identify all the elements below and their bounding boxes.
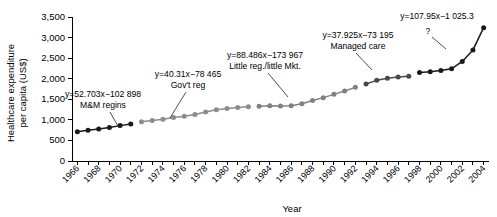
leader-line-1 [110, 112, 119, 128]
x-tick-label: 1996 [381, 163, 402, 184]
data-point [267, 103, 272, 108]
x-tick-label: 2000 [424, 163, 445, 184]
data-point [96, 126, 101, 131]
data-point [289, 103, 294, 108]
data-point [139, 119, 144, 124]
data-point [246, 104, 251, 109]
data-point [310, 98, 315, 103]
annotation-label-2: Gov't reg [171, 80, 206, 90]
x-tick-label: 1972 [124, 163, 145, 184]
data-point [257, 104, 262, 109]
data-point [160, 117, 165, 122]
annotation-little-reg: y=88.486x−173 967 Little reg./little Mkt… [227, 50, 303, 97]
x-axis-title: Year [282, 203, 301, 214]
annotation-equation-1: y=52.703x−102 898 [65, 89, 141, 99]
x-tick-label: 1978 [188, 163, 209, 184]
data-series-layer [75, 25, 486, 134]
x-tick-label: 1980 [210, 163, 231, 184]
chart-figure: Healthcare expenditure per capita (US$) … [0, 0, 497, 217]
y-tick-label: 2,000 [41, 73, 65, 84]
data-point [203, 110, 208, 115]
y-tick-label: 0 [60, 155, 65, 166]
data-point [342, 89, 347, 94]
annotation-equation-2: y=40.31x−78 465 [155, 69, 222, 79]
x-tick-label: 1998 [402, 163, 423, 184]
data-point [128, 121, 133, 126]
data-point [481, 25, 486, 30]
data-point [438, 68, 443, 73]
data-point [225, 106, 230, 111]
x-tick-label: 2002 [445, 163, 466, 184]
series-line [259, 87, 355, 106]
x-tick-label: 1982 [231, 163, 252, 184]
data-point [278, 104, 283, 109]
annotation-equation-5: y=107.95x−1 025.3 [400, 11, 474, 21]
data-point [449, 66, 454, 71]
y-tick-label: 3,000 [41, 32, 65, 43]
annotation-label-1: M&M regins [80, 100, 126, 110]
data-point [86, 128, 91, 133]
annotation-managed-care: y=37.925x−73 195 Managed care [322, 30, 393, 70]
x-tick-label: 2004 [466, 163, 487, 184]
annotation-unknown-era: y=107.95x−1 025.3 ? [400, 11, 474, 49]
y-tick-label: 1,500 [41, 93, 65, 104]
x-tick-label: 1986 [274, 163, 295, 184]
series-line [77, 124, 130, 132]
data-point [353, 85, 358, 90]
data-point [470, 47, 475, 52]
data-point [192, 112, 197, 117]
data-point [107, 125, 112, 130]
y-axis-title-line2: per capita (US$) [17, 58, 28, 127]
data-point [364, 82, 369, 87]
x-tick-label: 1974 [146, 163, 167, 184]
x-tick-label: 1976 [167, 163, 188, 184]
x-tick-label: 1984 [252, 163, 273, 184]
y-tick-label: 2,500 [41, 52, 65, 63]
x-tick-label: 1966 [60, 163, 81, 184]
annotation-equation-4: y=37.925x−73 195 [322, 30, 393, 40]
data-point [321, 95, 326, 100]
data-point [331, 92, 336, 97]
y-tick-label: 500 [49, 134, 65, 145]
data-point [460, 59, 465, 64]
data-point [150, 118, 155, 123]
annotation-label-3: Little reg./little Mkt. [229, 61, 301, 71]
series-segment [75, 121, 133, 134]
annotation-label-4: Managed care [331, 41, 386, 51]
annotation-label-5: ? [426, 26, 431, 36]
x-axis-ticks: 1966196819701972197419761978198019821984… [60, 161, 488, 185]
y-axis-title-line1: Healthcare expenditure [5, 44, 16, 142]
y-tick-label: 3,500 [41, 11, 65, 22]
x-tick-label: 1990 [317, 163, 338, 184]
data-point [385, 76, 390, 81]
annotation-equation-3: y=88.486x−173 967 [227, 50, 303, 60]
series-segment [364, 74, 412, 87]
healthcare-expenditure-line-chart: Healthcare expenditure per capita (US$) … [0, 0, 497, 217]
data-point [214, 107, 219, 112]
leader-line-5 [432, 37, 446, 49]
y-tick-label: 1,000 [41, 114, 65, 125]
data-point [299, 101, 304, 106]
x-tick-label: 1988 [295, 163, 316, 184]
series-segment [257, 85, 358, 109]
data-point [75, 129, 80, 134]
data-point [396, 75, 401, 80]
data-point [417, 70, 422, 75]
x-tick-label: 1994 [359, 163, 380, 184]
x-tick-label: 1970 [103, 163, 124, 184]
data-point [182, 114, 187, 119]
y-axis-title: Healthcare expenditure per capita (US$) [5, 44, 28, 142]
leader-line-4 [356, 53, 372, 70]
data-point [374, 78, 379, 83]
data-point [406, 74, 411, 79]
series-segment [139, 104, 251, 124]
data-point [428, 69, 433, 74]
data-point [235, 105, 240, 110]
x-tick-label: 1992 [338, 163, 359, 184]
x-tick-label: 1968 [81, 163, 102, 184]
leader-line-3 [268, 73, 288, 97]
